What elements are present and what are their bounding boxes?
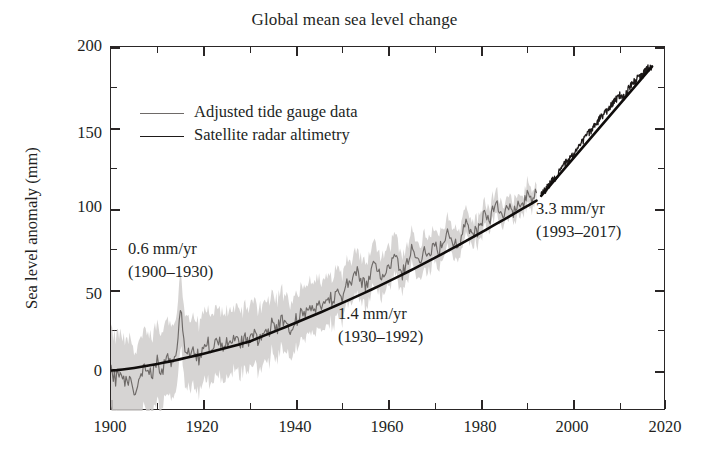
uncertainty-band-group bbox=[111, 176, 537, 411]
annotation-rate-value-2: 3.3 mm/yr bbox=[536, 198, 621, 221]
y-tick-label-150: 150 bbox=[56, 123, 102, 143]
page-title: Global mean sea level change bbox=[0, 10, 709, 30]
uncertainty-band bbox=[111, 176, 537, 411]
y-tick-label-200: 200 bbox=[56, 36, 102, 56]
trend-line-1993-2017 bbox=[541, 66, 652, 195]
x-tick-label-1960: 1960 bbox=[352, 417, 422, 437]
legend-label-tide-gauge: Adjusted tide gauge data bbox=[194, 104, 358, 121]
x-tick-label-1920: 1920 bbox=[167, 417, 237, 437]
annotation-period-1: (1930–1992) bbox=[338, 326, 423, 349]
annotation-rate-value-1: 1.4 mm/yr bbox=[338, 303, 423, 326]
y-axis-title: Sea level anomaly (mm) bbox=[22, 78, 42, 378]
legend-item-satellite[interactable]: Satellite radar altimetry bbox=[140, 124, 440, 147]
legend-line-icon-satellite bbox=[140, 130, 184, 142]
annotation-rate-1900-1930: 0.6 mm/yr (1900–1930) bbox=[128, 238, 213, 284]
legend-item-tide-gauge[interactable]: Adjusted tide gauge data bbox=[140, 101, 440, 124]
annotation-period-2: (1993–2017) bbox=[536, 221, 621, 244]
legend-line-icon-tide-gauge bbox=[140, 107, 184, 119]
x-tick-label-1940: 1940 bbox=[260, 417, 330, 437]
y-tick-label-0: 0 bbox=[56, 361, 102, 381]
annotation-rate-1993-2017: 3.3 mm/yr (1993–2017) bbox=[536, 198, 621, 244]
x-tick-label-2020: 2020 bbox=[630, 417, 700, 437]
x-tick-label-2000: 2000 bbox=[537, 417, 607, 437]
annotation-period-0: (1900–1930) bbox=[128, 261, 213, 284]
annotation-rate-1930-1992: 1.4 mm/yr (1930–1992) bbox=[338, 303, 423, 349]
legend: Adjusted tide gauge data Satellite radar… bbox=[140, 101, 440, 147]
x-tick-label-1900: 1900 bbox=[75, 417, 145, 437]
annotation-rate-value-0: 0.6 mm/yr bbox=[128, 238, 213, 261]
y-tick-label-100: 100 bbox=[56, 197, 102, 217]
figure: Global mean sea level change Sea level a… bbox=[0, 0, 709, 467]
legend-label-satellite: Satellite radar altimetry bbox=[194, 127, 350, 144]
x-tick-label-1980: 1980 bbox=[445, 417, 515, 437]
y-tick-label-50: 50 bbox=[56, 284, 102, 304]
